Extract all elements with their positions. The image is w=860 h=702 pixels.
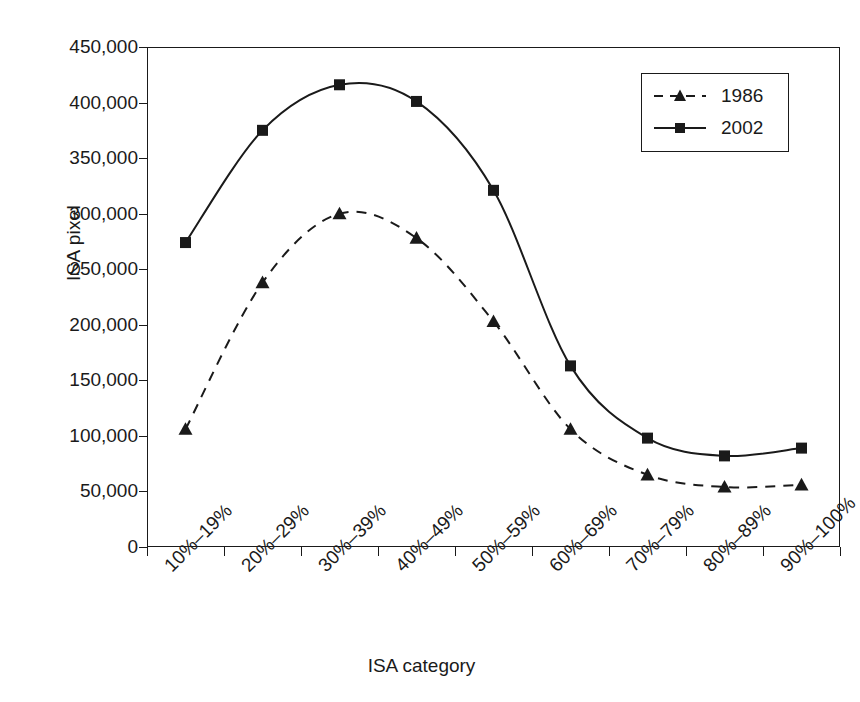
x-axis-tick (301, 547, 302, 556)
y-axis-tick-label: 50,000 (8, 481, 138, 500)
x-axis-tick (532, 547, 533, 556)
x-axis-tick (609, 547, 610, 556)
y-axis-tick-labels: 050,000100,000150,000200,000250,000300,0… (0, 0, 138, 702)
data-point-marker (410, 231, 424, 244)
y-axis-tick-label: 100,000 (8, 426, 138, 445)
y-axis-tick-label: 200,000 (8, 315, 138, 334)
y-axis-tick-label: 250,000 (8, 259, 138, 278)
x-axis-tick (378, 547, 379, 556)
series-line-1986 (186, 212, 802, 488)
series-1986 (179, 207, 809, 493)
y-axis-tick-label: 150,000 (8, 370, 138, 389)
data-point-marker (488, 185, 499, 196)
legend-item-2002: 2002 (642, 112, 788, 144)
data-point-marker (180, 237, 191, 248)
data-point-marker (256, 276, 270, 289)
legend-item-1986: 1986 (642, 80, 788, 112)
data-point-marker (641, 468, 655, 481)
data-point-marker (642, 433, 653, 444)
y-axis-tick-label: 450,000 (8, 37, 138, 56)
legend: 1986 2002 (641, 73, 789, 152)
data-point-marker (257, 125, 268, 136)
legend-marker-triangle-icon (652, 86, 708, 106)
x-axis-tick (686, 547, 687, 556)
y-axis-tick-label: 0 (8, 537, 138, 556)
x-axis-title: ISA category (0, 655, 843, 677)
y-axis-tick-label: 350,000 (8, 148, 138, 167)
x-axis-tick (224, 547, 225, 556)
x-axis-tick (147, 547, 148, 556)
data-point-marker (564, 422, 578, 435)
data-point-marker (411, 96, 422, 107)
data-point-marker (487, 314, 501, 327)
data-point-marker (565, 360, 576, 371)
y-axis-tick-label: 300,000 (8, 204, 138, 223)
legend-label-1986: 1986 (708, 85, 763, 107)
x-axis-tick (455, 547, 456, 556)
y-axis-tick-label: 400,000 (8, 93, 138, 112)
legend-label-2002: 2002 (708, 117, 763, 139)
data-point-marker (179, 422, 193, 435)
data-point-marker (795, 478, 809, 491)
data-point-marker (334, 79, 345, 90)
data-point-marker (796, 443, 807, 454)
legend-marker-square-icon (652, 118, 708, 138)
x-axis-tick (840, 547, 841, 556)
x-axis-tick (763, 547, 764, 556)
data-point-marker (719, 450, 730, 461)
